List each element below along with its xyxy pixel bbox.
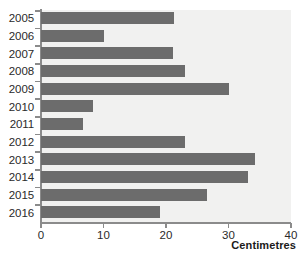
bars-layer — [41, 10, 291, 222]
bar-2005 — [41, 12, 174, 24]
bar-row — [41, 134, 291, 152]
y-tick-2014 — [35, 169, 41, 171]
y-tick-label-2009: 2009 — [0, 83, 34, 95]
bar-row — [41, 63, 291, 81]
bar-row — [41, 98, 291, 116]
bar-2013 — [41, 153, 255, 165]
bar-2009 — [41, 83, 229, 95]
bar-row — [41, 10, 291, 28]
y-tick-2010 — [35, 98, 41, 100]
y-tick-2007 — [35, 45, 41, 47]
y-tick-2006 — [35, 28, 41, 30]
bar-2006 — [41, 30, 104, 42]
bar-2012 — [41, 136, 185, 148]
bar-row — [41, 187, 291, 205]
y-tick-label-2015: 2015 — [0, 189, 34, 201]
y-tick-label-2013: 2013 — [0, 154, 34, 166]
bar-2016 — [41, 206, 160, 218]
bar-row — [41, 169, 291, 187]
bar-2014 — [41, 171, 248, 183]
y-tick-label-2006: 2006 — [0, 30, 34, 42]
bar-2010 — [41, 100, 93, 112]
x-tick-20 — [165, 223, 167, 228]
y-tick-label-2005: 2005 — [0, 12, 34, 24]
bar-row — [41, 45, 291, 63]
x-axis-title: Centimetres — [0, 239, 296, 251]
x-tick-0 — [40, 223, 42, 228]
bar-row — [41, 151, 291, 169]
y-tick-2013 — [35, 151, 41, 153]
y-tick-2011 — [35, 116, 41, 118]
y-tick-2015 — [35, 187, 41, 189]
bar-2008 — [41, 65, 185, 77]
x-tick-10 — [103, 223, 105, 228]
bar-2015 — [41, 189, 207, 201]
bar-chart: 2005200620072008200920102011201220132014… — [0, 0, 303, 257]
y-tick-label-2014: 2014 — [0, 171, 34, 183]
x-tick-30 — [228, 223, 230, 228]
y-tick-label-2016: 2016 — [0, 207, 34, 219]
bar-row — [41, 204, 291, 222]
x-tick-40 — [290, 223, 292, 228]
y-tick-2005 — [35, 10, 41, 12]
y-tick-label-2008: 2008 — [0, 65, 34, 77]
bar-row — [41, 28, 291, 46]
y-tick-label-2011: 2011 — [0, 118, 34, 130]
y-tick-2009 — [35, 81, 41, 83]
y-tick-label-2010: 2010 — [0, 101, 34, 113]
bar-row — [41, 116, 291, 134]
y-tick-2016 — [35, 204, 41, 206]
y-tick-2012 — [35, 134, 41, 136]
bar-2011 — [41, 118, 83, 130]
y-tick-label-2012: 2012 — [0, 136, 34, 148]
y-tick-label-2007: 2007 — [0, 48, 34, 60]
bar-2007 — [41, 47, 173, 59]
y-tick-2008 — [35, 63, 41, 65]
bar-row — [41, 81, 291, 99]
